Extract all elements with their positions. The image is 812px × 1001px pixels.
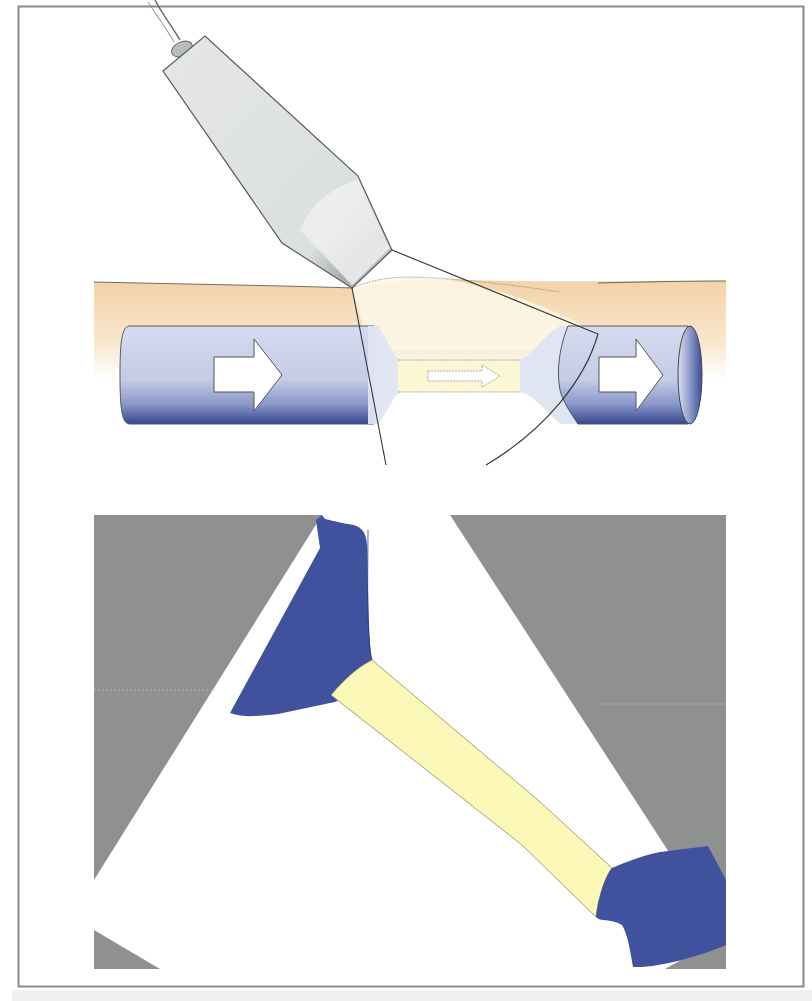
ultrasound-view-panel [94, 515, 726, 995]
bottom-strip [12, 990, 812, 1001]
stenosis-ultrasound-figure [0, 0, 812, 1001]
vessel-opening [678, 326, 702, 424]
